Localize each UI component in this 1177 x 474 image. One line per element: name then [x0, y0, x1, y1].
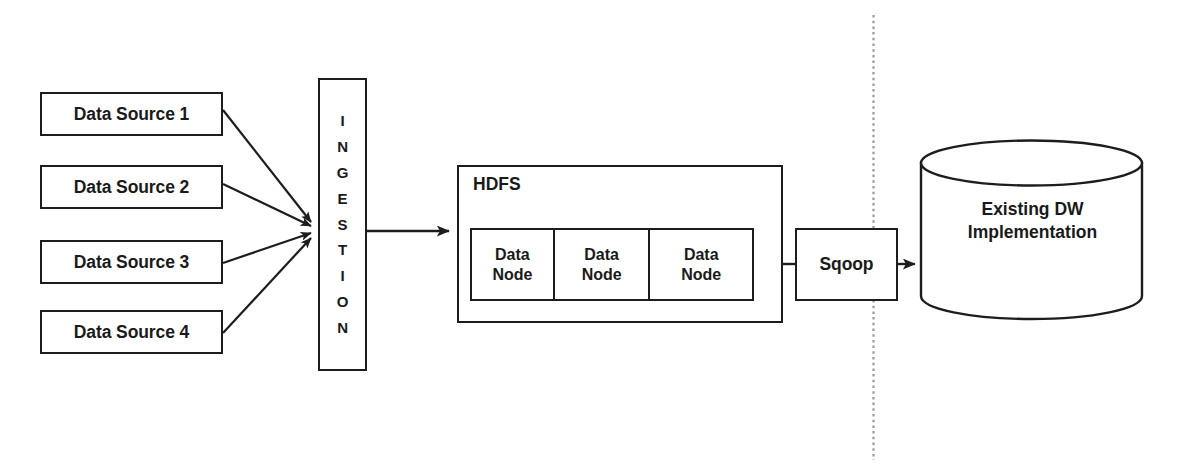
- data-source-4-box[interactable]: Data Source 4: [40, 310, 223, 354]
- ingestion-letter-7: I: [340, 263, 344, 289]
- sqoop-box[interactable]: Sqoop: [795, 228, 898, 301]
- ingestion-letter-5: S: [338, 212, 348, 238]
- sqoop-label: Sqoop: [820, 254, 874, 275]
- ingestion-letter-1: I: [340, 108, 344, 134]
- data-node-2[interactable]: Data Node: [555, 230, 651, 299]
- source-to-ingestion-arrows: [223, 110, 311, 333]
- data-node-3-line2: Node: [681, 265, 721, 285]
- diagram-canvas: Data Source 1 Data Source 2 Data Source …: [0, 0, 1177, 474]
- data-node-1-line2: Node: [492, 265, 532, 285]
- data-node-1-line1: Data: [495, 245, 530, 265]
- data-node-3[interactable]: Data Node: [650, 230, 752, 299]
- data-node-3-line1: Data: [684, 245, 719, 265]
- ingestion-letter-6: T: [338, 237, 347, 263]
- data-source-1-box[interactable]: Data Source 1: [40, 92, 223, 136]
- data-source-1-label: Data Source 1: [74, 104, 189, 125]
- data-node-2-line1: Data: [584, 245, 619, 265]
- data-node-strip: Data Node Data Node Data Node: [470, 228, 754, 301]
- ingestion-letter-8: O: [337, 289, 349, 315]
- data-source-2-label: Data Source 2: [74, 177, 189, 198]
- hdfs-label: HDFS: [473, 174, 521, 195]
- ingestion-letter-2: N: [337, 134, 348, 160]
- data-node-1[interactable]: Data Node: [472, 230, 555, 299]
- ingestion-letter-9: N: [337, 315, 348, 341]
- data-node-2-line2: Node: [582, 265, 622, 285]
- ingestion-letter-4: E: [338, 186, 348, 212]
- ingestion-letter-3: G: [337, 160, 349, 186]
- data-source-3-box[interactable]: Data Source 3: [40, 240, 223, 284]
- data-source-2-box[interactable]: Data Source 2: [40, 165, 223, 209]
- data-source-4-label: Data Source 4: [74, 322, 189, 343]
- data-source-3-label: Data Source 3: [74, 252, 189, 273]
- ingestion-box[interactable]: I N G E S T I O N: [318, 78, 367, 371]
- existing-dw-cylinder: [921, 141, 1142, 320]
